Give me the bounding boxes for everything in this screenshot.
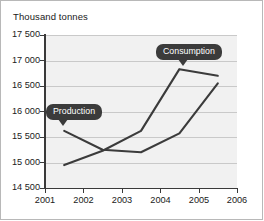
x-tick-label: 2003 (105, 195, 139, 205)
y-tick-label: 15 500 (2, 131, 40, 141)
chart-axis-title: Thousand tonnes (13, 11, 88, 22)
y-tick: 15 000 (0, 157, 40, 169)
y-tick-mark (40, 162, 45, 163)
x-axis-line (44, 188, 237, 190)
x-tick-label: 2005 (182, 195, 216, 205)
y-tick: 16 000 (0, 106, 40, 118)
y-tick: 16 500 (0, 80, 40, 92)
y-tick: 14 500 (0, 182, 40, 194)
x-tick-mark (122, 188, 123, 193)
annotation-production-label: Production (53, 106, 95, 116)
x-tick-label: 2002 (67, 195, 101, 205)
x-tick-mark (160, 188, 161, 193)
y-tick: 15 500 (0, 131, 40, 143)
x-tick-label: 2006 (220, 195, 254, 205)
annotation-production: Production (46, 104, 102, 120)
x-tick-mark (199, 188, 200, 193)
gridline (45, 86, 237, 87)
y-tick: 17 500 (0, 29, 40, 41)
x-tick-mark (83, 188, 84, 193)
gridline (45, 163, 237, 164)
y-tick-label: 17 500 (2, 29, 40, 39)
y-tick-mark (40, 111, 45, 112)
y-tick-label: 14 500 (2, 182, 40, 192)
y-tick-label: 16 500 (2, 80, 40, 90)
x-tick-mark (45, 188, 46, 193)
gridline (45, 137, 237, 138)
gridline (45, 35, 237, 36)
y-tick-mark (40, 60, 45, 61)
y-tick-label: 15 000 (2, 157, 40, 167)
annotation-consumption-label: Consumption (163, 46, 215, 56)
y-tick-mark (40, 137, 45, 138)
annotation-consumption-tail (178, 59, 188, 66)
x-tick-label: 2004 (144, 195, 178, 205)
annotation-consumption: Consumption (156, 44, 222, 60)
y-tick: 17 000 (0, 55, 40, 67)
y-tick-label: 16 000 (2, 106, 40, 116)
y-tick-mark (40, 86, 45, 87)
y-tick-mark (40, 35, 45, 36)
x-tick-label: 2001 (28, 195, 62, 205)
annotation-production-tail (58, 119, 68, 126)
chart-page: Thousand tonnes 17 500 17 000 16 500 16 … (0, 0, 264, 221)
x-tick-mark (237, 188, 238, 193)
y-tick-label: 17 000 (2, 55, 40, 65)
gridline (45, 61, 237, 62)
